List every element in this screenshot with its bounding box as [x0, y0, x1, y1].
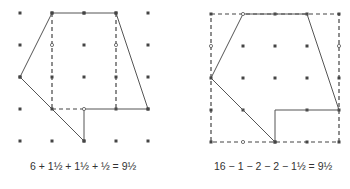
- right-caption: 16 − 1 − 2 − 2 − 1½ = 9½: [214, 160, 332, 172]
- left-dashed-decomposition: [52, 13, 116, 109]
- left-caption: 6 + 1½ + 1½ + ½ = 9½: [30, 160, 136, 172]
- left-geoboard: [19, 12, 150, 143]
- right-geoboard: [209, 12, 340, 143]
